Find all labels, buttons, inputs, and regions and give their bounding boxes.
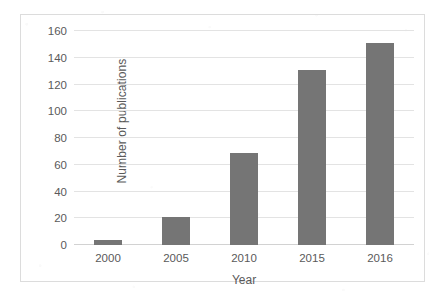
y-tick-label: 120 xyxy=(48,79,67,91)
bar-2005 xyxy=(162,217,190,245)
x-tick-label: 2015 xyxy=(299,252,325,264)
bar-group xyxy=(346,31,414,245)
bar-2015 xyxy=(298,70,326,245)
bar-2010 xyxy=(230,153,258,245)
y-tick-label: 140 xyxy=(48,52,67,64)
bar-group xyxy=(278,31,346,245)
y-tick-label: 40 xyxy=(54,186,67,198)
bar-group xyxy=(210,31,278,245)
y-tick-label: 80 xyxy=(54,132,67,144)
bar-2016 xyxy=(366,43,394,245)
bar-2000 xyxy=(94,240,122,245)
y-tick-label: 20 xyxy=(54,212,67,224)
bar-group xyxy=(142,31,210,245)
chart-frame: Number of publications 02040608010012014… xyxy=(20,14,425,282)
y-tick-label: 100 xyxy=(48,105,67,117)
x-axis-title: Year xyxy=(74,273,414,287)
plot-area: 020406080100120140160 200020052010201520… xyxy=(74,31,414,245)
x-tick-label: 2000 xyxy=(95,252,121,264)
y-tick-label: 160 xyxy=(48,25,67,37)
y-tick-label: 60 xyxy=(54,159,67,171)
bar-group xyxy=(74,31,142,245)
x-tick-label: 2016 xyxy=(367,252,393,264)
y-tick-label: 0 xyxy=(61,239,67,251)
x-tick-label: 2010 xyxy=(231,252,257,264)
bar-series: 20002005201020152016 xyxy=(74,31,414,245)
x-tick-label: 2005 xyxy=(163,252,189,264)
